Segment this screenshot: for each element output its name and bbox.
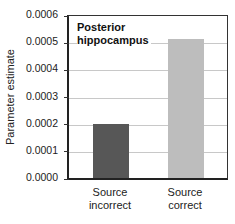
y-tick-mark bbox=[64, 179, 69, 180]
y-tick-mark bbox=[64, 97, 69, 98]
chart-title-line-2: hippocampus bbox=[77, 34, 149, 47]
bar-source-incorrect bbox=[93, 124, 129, 178]
x-category-label-source-correct: Source correct bbox=[150, 186, 220, 212]
plot-area: Posterior hippocampus bbox=[67, 15, 228, 180]
y-tick-label: 0.0004 bbox=[0, 62, 58, 74]
y-tick-mark bbox=[64, 43, 69, 44]
x-category-label-source-incorrect: Source incorrect bbox=[75, 186, 145, 212]
y-tick-mark bbox=[64, 16, 69, 17]
y-tick-label: 0.0006 bbox=[0, 8, 58, 20]
y-tick-label: 0.0000 bbox=[0, 171, 58, 183]
y-tick-mark bbox=[64, 70, 69, 71]
bar-chart: Parameter estimate 0.00000.00010.00020.0… bbox=[0, 0, 235, 224]
x-label-line: Source bbox=[75, 186, 145, 199]
y-tick-mark bbox=[64, 151, 69, 152]
y-tick-label: 0.0001 bbox=[0, 144, 58, 156]
chart-title: Posterior hippocampus bbox=[77, 21, 151, 47]
chart-title-line-1: Posterior bbox=[77, 21, 149, 34]
y-tick-label: 0.0005 bbox=[0, 35, 58, 47]
x-label-line: correct bbox=[150, 199, 220, 212]
bar-source-correct bbox=[168, 39, 204, 178]
x-label-line: incorrect bbox=[75, 199, 145, 212]
y-tick-mark bbox=[64, 124, 69, 125]
y-tick-label: 0.0003 bbox=[0, 90, 58, 102]
y-tick-label: 0.0002 bbox=[0, 117, 58, 129]
x-label-line: Source bbox=[150, 186, 220, 199]
